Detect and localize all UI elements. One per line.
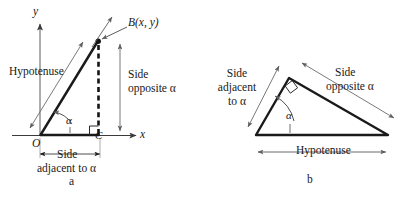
panel-b-graphics <box>248 63 394 152</box>
side-opposite-label-a-line1: Side <box>128 68 148 80</box>
panel-b-letter: b <box>307 173 313 185</box>
side-opposite-label-b-line2: opposite α <box>326 80 374 92</box>
point-b-callout-arrow <box>102 27 127 39</box>
point-b-label: B(x, y) <box>128 16 159 28</box>
side-adjacent-label-b-line2: adjacent <box>203 81 271 93</box>
point-c-label: C <box>95 130 102 142</box>
side-opposite-label-b-line1: Side <box>335 66 355 78</box>
y-axis-label: y <box>33 5 38 17</box>
origin-label: O <box>32 137 40 149</box>
panel-a-graphics <box>12 17 136 158</box>
hypotenuse-label-a: Hypotenuse <box>9 65 64 77</box>
side-adjacent-label-a-line1: Side <box>57 148 77 160</box>
side-adjacent-label-b-line3: to α <box>209 95 265 107</box>
hypotenuse-label-b: Hypotenuse <box>296 144 351 156</box>
side-adjacent-label-a-line2: adjacent to α <box>37 162 96 174</box>
panel-a-letter: a <box>69 175 74 187</box>
point-b-tick <box>92 17 112 47</box>
x-axis-label: x <box>140 128 145 140</box>
side-opposite-label-a-line2: opposite α <box>128 82 176 94</box>
side-adjacent-label-b-line1: Side <box>208 67 266 79</box>
figure-root: y x O C B(x, y) Hypotenuse Side opposite… <box>0 0 409 197</box>
angle-alpha-label-b: α <box>286 110 292 122</box>
hypotenuse-callout-arrow-a <box>30 42 83 128</box>
angle-alpha-label-a: α <box>66 115 72 127</box>
